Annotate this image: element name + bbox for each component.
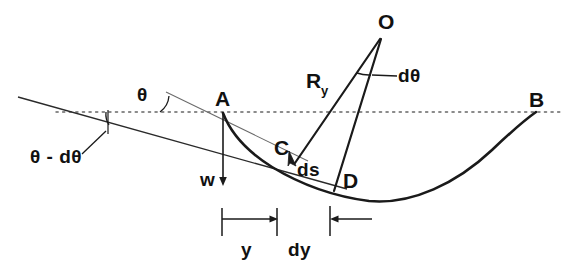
label-dimension-dy: dy xyxy=(288,240,311,259)
angle-arc-theta xyxy=(160,96,169,112)
label-weight-w: w xyxy=(200,170,215,189)
label-point-a: A xyxy=(215,88,231,109)
label-radius-subscript-y: y xyxy=(321,84,328,97)
label-theta-minus-d-theta: θ - dθ xyxy=(30,147,82,166)
angle-arc-dtheta xyxy=(357,73,371,75)
label-dimension-y: y xyxy=(241,240,252,259)
theta-minus-dtheta-leader-line xyxy=(82,131,106,154)
label-point-b: B xyxy=(529,89,545,110)
radius-line-o-to-c xyxy=(295,39,380,163)
label-point-d: D xyxy=(343,170,359,191)
catenary-curve xyxy=(223,112,536,201)
dtheta-leader-line xyxy=(372,75,397,76)
label-theta: θ xyxy=(137,85,148,104)
label-point-c: C xyxy=(274,137,290,158)
label-point-o: O xyxy=(378,11,395,32)
label-radius-r: R xyxy=(306,70,322,91)
label-arc-length-ds: ds xyxy=(297,160,320,179)
dimension-dy-arrowhead xyxy=(330,216,339,223)
weight-vector-arrow-head xyxy=(219,177,227,186)
geometry-diagram-figure: O A B C D R y dθ θ θ - dθ w ds y dy xyxy=(0,0,566,274)
label-d-theta: dθ xyxy=(398,66,421,85)
